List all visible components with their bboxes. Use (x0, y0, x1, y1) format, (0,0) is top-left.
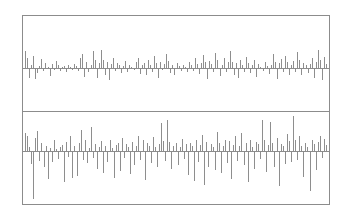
stem-bar (316, 152, 317, 170)
stem-bar (250, 69, 251, 73)
stem-bar (66, 142, 67, 151)
stem-bar (167, 120, 168, 151)
stem-bar (250, 140, 251, 151)
stem-bar (275, 62, 276, 68)
stem-bar (199, 69, 200, 74)
stem-bar (99, 63, 100, 68)
stem-bar (171, 152, 172, 169)
stem-bar (107, 152, 108, 162)
stem-bar (312, 58, 313, 68)
stem-bar (95, 144, 96, 151)
stem-bar (88, 69, 89, 72)
stem-bar (297, 52, 298, 68)
stem-bar (310, 152, 311, 191)
stem-bar (115, 69, 116, 71)
stem-bar (221, 152, 222, 173)
stem-bar (160, 62, 161, 68)
stem-bar (25, 133, 26, 151)
stem-bar (320, 136, 321, 151)
stem-bar (105, 146, 106, 151)
stem-bar (219, 143, 220, 151)
stem-bar (35, 138, 36, 151)
stem-bar (277, 138, 278, 151)
stem-bar (182, 139, 183, 151)
stem-bar (152, 69, 153, 72)
stem-bar (170, 69, 171, 73)
stem-bar (173, 146, 174, 151)
stem-bar (56, 61, 57, 68)
stem-bar (120, 152, 121, 171)
stem-bar (279, 63, 280, 68)
stem-bar (244, 152, 245, 165)
stem-bar (322, 152, 323, 158)
stem-bar (29, 147, 30, 151)
stem-bar (220, 69, 221, 76)
stem-bar (295, 69, 296, 72)
stem-bar (95, 60, 96, 68)
stem-bar (226, 69, 227, 72)
stem-bar (25, 51, 26, 68)
stem-bar (62, 145, 63, 151)
stem-bar (236, 63, 237, 68)
stem-bar (76, 66, 77, 68)
stem-bar (72, 152, 73, 178)
stem-bar (289, 69, 290, 75)
stem-bar (258, 144, 259, 151)
stem-bar (52, 152, 53, 162)
stem-bar (248, 63, 249, 68)
stem-bar (74, 146, 75, 151)
stem-bar (293, 116, 294, 151)
stem-bar (50, 148, 51, 151)
stem-bar (56, 149, 57, 151)
stem-bar (272, 143, 273, 151)
stem-bar (209, 61, 210, 68)
stem-bar (301, 146, 302, 151)
stem-bar (54, 69, 55, 70)
stem-bar (41, 59, 42, 68)
stem-bar (54, 140, 55, 151)
panel-bottom (23, 111, 329, 204)
stem-bar (147, 143, 148, 151)
stem-bar (44, 152, 45, 167)
stem-bar (307, 147, 308, 151)
panel-top-stems (23, 16, 329, 111)
stem-bar (310, 64, 311, 68)
stem-bar (143, 140, 144, 151)
stem-bar (178, 152, 179, 165)
stem-bar (232, 62, 233, 68)
stem-bar (91, 65, 92, 68)
stem-bar (33, 152, 34, 199)
stem-bar (156, 63, 157, 68)
panel-bottom-stems (23, 112, 329, 204)
stem-bar (197, 64, 198, 68)
stem-bar (241, 133, 242, 151)
stem-bar (271, 65, 272, 68)
stem-bar (80, 58, 81, 68)
stem-bar (33, 56, 34, 68)
stem-bar (225, 140, 226, 151)
stem-bar (163, 141, 164, 151)
stem-bar (322, 69, 323, 80)
stem-bar (58, 65, 59, 68)
stem-bar (183, 65, 184, 68)
stem-bar (283, 146, 284, 151)
stem-bar (326, 145, 327, 151)
stem-bar (64, 66, 65, 68)
stem-bar (217, 60, 218, 68)
stem-bar (204, 152, 205, 185)
stem-bar (107, 62, 108, 68)
stem-bar (85, 140, 86, 151)
stem-bar (66, 69, 67, 72)
stem-bar (299, 60, 300, 68)
stem-bar (39, 152, 40, 161)
stem-bar (70, 136, 71, 151)
stem-bar (265, 62, 266, 68)
stem-bar (188, 152, 189, 175)
stem-bar (109, 69, 110, 80)
stem-bar (168, 61, 169, 68)
stem-bar (169, 142, 170, 151)
stem-bar (113, 58, 114, 68)
stem-bar (281, 59, 282, 68)
stem-bar (111, 64, 112, 68)
stem-bar (215, 152, 216, 170)
